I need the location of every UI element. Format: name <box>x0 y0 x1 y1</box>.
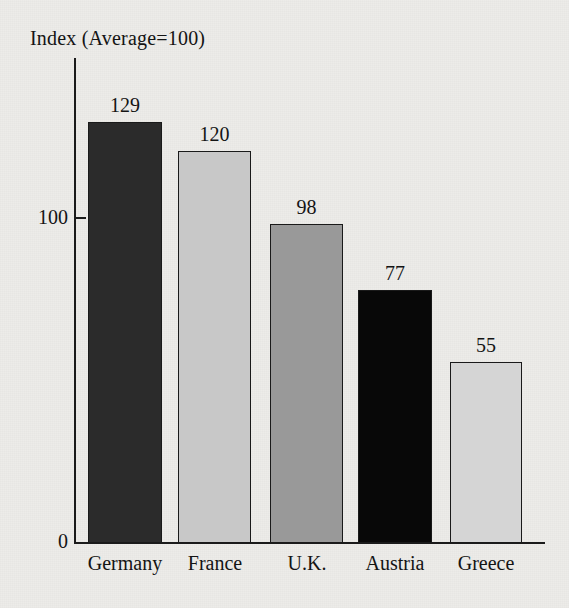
bar-uk[interactable] <box>270 224 343 543</box>
x-label-austria: Austria <box>354 552 436 575</box>
y-tick-label-0: 0 <box>6 530 68 553</box>
bar-germany[interactable] <box>88 122 162 543</box>
x-label-germany: Germany <box>83 552 167 575</box>
y-tick-label-100: 100 <box>6 206 68 229</box>
bar-austria[interactable] <box>358 290 432 543</box>
bar-value-austria: 77 <box>358 262 432 285</box>
bar-france[interactable] <box>178 151 251 543</box>
y-axis-title: Index (Average=100) <box>30 27 205 50</box>
bar-greece[interactable] <box>450 362 522 543</box>
y-tick-100 <box>76 217 86 219</box>
x-label-greece: Greece <box>446 552 526 575</box>
x-label-uk: U.K. <box>269 552 345 575</box>
page-background: Index (Average=100) 100 0 129 Germany 12… <box>0 0 569 608</box>
x-label-france: France <box>174 552 256 575</box>
y-axis-line <box>74 58 76 544</box>
bar-value-france: 120 <box>178 123 251 146</box>
bar-value-greece: 55 <box>450 334 522 357</box>
bar-value-uk: 98 <box>270 196 343 219</box>
bar-chart: Index (Average=100) 100 0 129 Germany 12… <box>0 0 569 608</box>
bar-value-germany: 129 <box>88 94 162 117</box>
